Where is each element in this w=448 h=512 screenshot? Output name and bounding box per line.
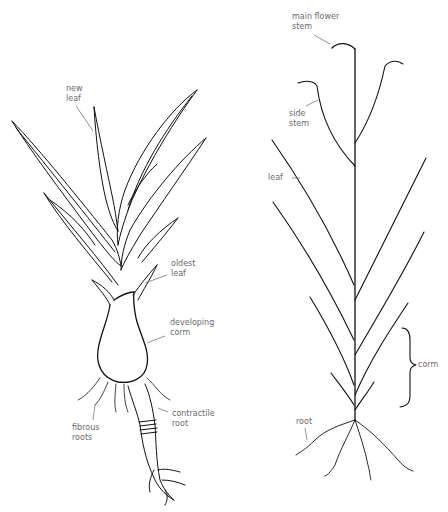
corm-brace	[400, 328, 416, 407]
label-oldest-leaf: oldest leaf	[171, 259, 195, 279]
label-new-leaf: new leaf	[66, 84, 83, 104]
label-fibrous-roots: fibrous roots	[72, 423, 99, 443]
right-leader-lines	[292, 35, 330, 440]
stem-leaves	[272, 140, 426, 410]
label-contractile-root: contractile root	[172, 409, 215, 429]
label-corm: corm	[418, 360, 438, 370]
label-root: root	[296, 417, 312, 427]
developing-corm	[98, 292, 148, 382]
right-plant-drawing	[272, 35, 426, 480]
left-plant-drawing	[12, 90, 206, 505]
fibrous-roots	[78, 378, 170, 412]
diagram-canvas	[0, 0, 448, 512]
contractile-root	[128, 384, 185, 505]
right-roots	[296, 420, 413, 480]
label-developing-corm: developing corm	[170, 318, 214, 338]
label-leaf: leaf	[268, 173, 283, 183]
main-flower-stem	[332, 44, 355, 420]
left-leader-lines	[76, 106, 168, 420]
side-stems	[298, 61, 403, 166]
label-main-flower-stem: main flower stem	[292, 12, 339, 32]
label-side-stem: side stem	[289, 109, 309, 129]
